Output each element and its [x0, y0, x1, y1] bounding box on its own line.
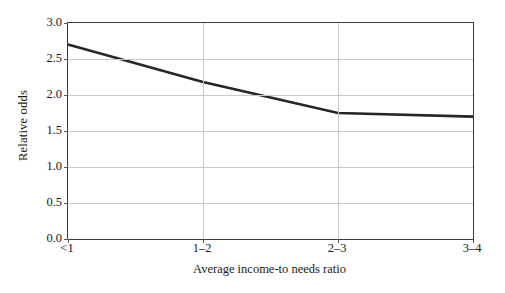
gridline-horizontal: [68, 95, 473, 96]
gridline-vertical: [338, 23, 339, 239]
x-tick-label: 1–2: [193, 242, 212, 255]
relative-odds-line: [68, 45, 473, 117]
plot-area: [67, 22, 474, 240]
y-tick-label: 0.0: [28, 232, 62, 245]
y-tick-label: 3.0: [28, 16, 62, 29]
y-tick-mark: [64, 167, 68, 168]
y-tick-label: 1.0: [28, 160, 62, 173]
gridline-horizontal: [68, 131, 473, 132]
x-tick-label: <1: [60, 242, 73, 255]
y-tick-mark: [64, 23, 68, 24]
y-tick-label: 2.5: [28, 52, 62, 65]
chart-figure: Relative odds 0.00.51.01.52.02.53.0 <11–…: [0, 0, 505, 293]
x-axis-title: Average income-to needs ratio: [67, 262, 472, 277]
y-tick-mark: [64, 95, 68, 96]
x-tick-label: 3–4: [463, 242, 482, 255]
y-axis-tick-labels: 0.00.51.01.52.02.53.0: [28, 0, 62, 293]
y-tick-label: 0.5: [28, 196, 62, 209]
y-tick-label: 2.0: [28, 88, 62, 101]
y-tick-mark: [64, 131, 68, 132]
gridline-vertical: [203, 23, 204, 239]
y-tick-mark: [64, 59, 68, 60]
y-tick-mark: [64, 203, 68, 204]
gridline-horizontal: [68, 59, 473, 60]
gridline-horizontal: [68, 167, 473, 168]
gridline-horizontal: [68, 203, 473, 204]
y-tick-label: 1.5: [28, 124, 62, 137]
x-tick-label: 2–3: [328, 242, 347, 255]
x-axis-tick-labels: <11–22–33–4: [67, 242, 472, 260]
